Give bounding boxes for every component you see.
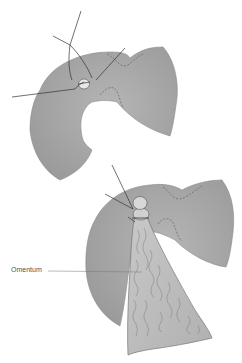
omentum-label: Omentum	[11, 266, 42, 274]
stomach-diagram	[0, 0, 242, 363]
top-stomach	[30, 47, 177, 180]
